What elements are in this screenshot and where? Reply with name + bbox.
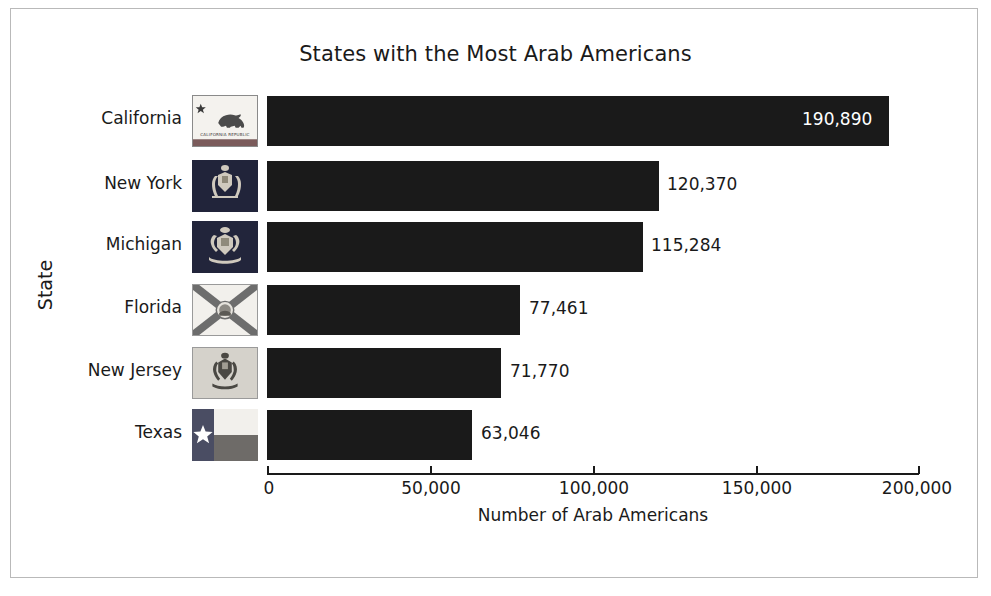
category-label-michigan: Michigan: [32, 234, 182, 254]
category-label-new-york: New York: [32, 173, 182, 193]
x-axis-tick-label: 50,000: [371, 478, 491, 498]
bar-value-california: 190,890: [802, 109, 872, 129]
flag-new-jersey-icon: [192, 347, 258, 399]
x-axis-tick-label: 0: [209, 478, 329, 498]
x-axis-tick-label: 100,000: [534, 478, 654, 498]
bar-row: Texas 63,046: [0, 409, 991, 461]
bar-value-new-jersey: 71,770: [510, 361, 569, 381]
bar-row: New Jersey 71,770: [0, 347, 991, 399]
flag-michigan-icon: [192, 221, 258, 273]
plot-area: California CALIFORNIA REPUBLIC 190,890 N…: [0, 0, 991, 596]
bar-new-jersey: [267, 348, 501, 398]
x-axis-tick: [918, 466, 920, 474]
x-axis-title: Number of Arab Americans: [267, 505, 919, 525]
x-axis-tick: [430, 466, 432, 474]
bar-row: New York 120,370: [0, 160, 991, 212]
category-label-florida: Florida: [32, 297, 182, 317]
bar-michigan: [267, 222, 643, 272]
flag-florida-icon: [192, 284, 258, 336]
x-axis-tick-label: 200,000: [857, 478, 977, 498]
svg-text:CALIFORNIA REPUBLIC: CALIFORNIA REPUBLIC: [200, 132, 249, 137]
bar-new-york: [267, 161, 659, 211]
bar-value-florida: 77,461: [529, 298, 588, 318]
x-axis-tick: [593, 466, 595, 474]
bar-row: Michigan 115,284: [0, 221, 991, 273]
x-axis-tick-label: 150,000: [697, 478, 817, 498]
bar-value-michigan: 115,284: [651, 235, 721, 255]
bar-california: [267, 96, 889, 146]
bar-value-new-york: 120,370: [667, 174, 737, 194]
x-axis-tick: [267, 466, 269, 474]
bar-florida: [267, 285, 520, 335]
category-label-new-jersey: New Jersey: [32, 360, 182, 380]
bar-value-texas: 63,046: [481, 423, 540, 443]
bar-row: Florida 77,461: [0, 284, 991, 336]
bar-texas: [267, 410, 472, 460]
x-axis-tick: [756, 466, 758, 474]
flag-california-icon: CALIFORNIA REPUBLIC: [192, 95, 258, 147]
flag-texas-icon: [192, 409, 258, 461]
bar-row: California CALIFORNIA REPUBLIC 190,890: [0, 95, 991, 147]
category-label-texas: Texas: [32, 422, 182, 442]
flag-new-york-icon: [192, 160, 258, 212]
category-label-california: California: [32, 108, 182, 128]
